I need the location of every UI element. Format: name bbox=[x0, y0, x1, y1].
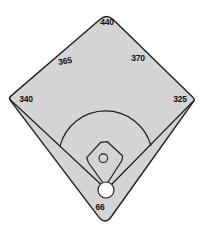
ballpark-diagram: 440 365 370 340 325 66 bbox=[0, 0, 202, 237]
distance-label-backstop: 66 bbox=[95, 202, 105, 212]
distance-label-left-line: 340 bbox=[19, 94, 33, 104]
distance-label-right-center: 370 bbox=[131, 53, 145, 63]
distance-label-right-line: 325 bbox=[173, 94, 187, 104]
pitchers-mound bbox=[99, 154, 108, 163]
ballpark-svg: 440 365 370 340 325 66 bbox=[0, 0, 202, 237]
home-plate-circle bbox=[98, 182, 114, 198]
distance-label-center-field: 440 bbox=[100, 17, 114, 27]
